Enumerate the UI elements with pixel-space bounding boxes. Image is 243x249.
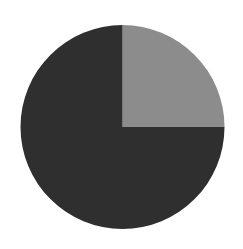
pie-chart-canvas [0, 0, 243, 249]
pie-slice-1 [123, 25, 225, 127]
pie-chart [0, 0, 243, 249]
